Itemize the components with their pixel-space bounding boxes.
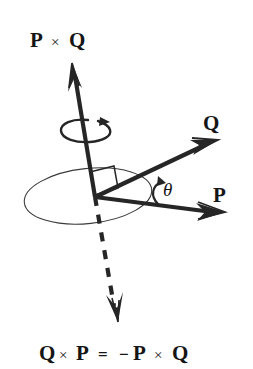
bottom-label-equals-icon: = [98, 345, 108, 364]
bottom-label-times-icon-1: × [59, 347, 67, 363]
plane-outline [21, 162, 154, 230]
vector-p [95, 197, 225, 221]
vector-q-shaft [95, 145, 205, 197]
top-label-p-cross-q: P × Q [30, 28, 85, 52]
vector-q-label: Q [203, 111, 219, 135]
bottom-label-q1: Q [39, 341, 55, 365]
bottom-label-q2: Q [172, 341, 188, 365]
angle-theta-label: θ [163, 179, 172, 200]
q-cross-p-shaft [95, 197, 114, 306]
pq-plane-ellipse [21, 162, 154, 230]
bottom-label-identity: Q × P = − P × Q [39, 341, 188, 365]
cross-product-figure: P × Q Q P θ Q × P = − P × Q [0, 0, 253, 369]
vector-diagram-canvas: P × Q Q P θ Q × P = − P × Q [0, 0, 253, 369]
vector-q [95, 138, 218, 197]
bottom-label-p1: P [76, 341, 89, 365]
vector-p-label: P [213, 183, 226, 207]
top-label-q: Q [69, 28, 85, 52]
top-label-times-icon: × [51, 34, 59, 50]
bottom-label-minus-icon: − [119, 345, 129, 364]
top-label-p: P [30, 28, 43, 52]
bottom-label-times-icon-2: × [154, 347, 162, 363]
q-cross-p-vector [95, 197, 123, 322]
bottom-label-p2: P [133, 341, 146, 365]
